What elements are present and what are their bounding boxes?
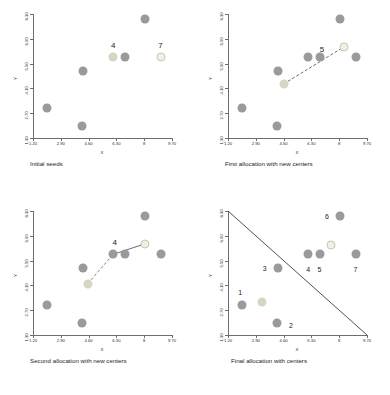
- cluster-center-marker: [156, 53, 165, 62]
- cluster-center-marker: [327, 240, 336, 249]
- data-point-marker: [78, 122, 87, 131]
- data-point-marker: [156, 250, 165, 259]
- point-annotation-label: 7: [354, 265, 358, 272]
- y-tick-label: 4.10: [219, 284, 224, 292]
- point-annotation-label: 4: [306, 265, 310, 272]
- x-tick-label: 2.90: [252, 141, 260, 146]
- point-annotation-label: 5: [320, 44, 324, 53]
- data-point-marker: [78, 319, 87, 328]
- y-tick-label: 6.90: [219, 37, 224, 45]
- data-point-marker: [273, 122, 282, 131]
- data-point-marker: [237, 103, 246, 112]
- x-axis-title: X: [296, 150, 299, 155]
- x-tick-label: 1.20: [29, 338, 37, 343]
- data-point-marker: [78, 263, 87, 272]
- x-tick-label: 8: [338, 338, 340, 343]
- overlay-lines: [33, 211, 172, 335]
- y-tick-label: 8.30: [24, 12, 29, 20]
- panel-caption: First allocation with new centers: [225, 160, 313, 167]
- point-annotation-label: 6: [325, 213, 329, 220]
- data-point-marker: [304, 250, 313, 259]
- panel-caption: Second allocation with new centers: [30, 357, 127, 364]
- point-annotation-label: 3: [263, 264, 267, 271]
- x-axis-line: [33, 335, 172, 336]
- panel-caption: Initial seeds: [30, 160, 63, 167]
- x-tick-label: 4.60: [85, 141, 93, 146]
- y-tick-label: 2.70: [219, 112, 224, 120]
- y-axis-title: Y: [13, 77, 18, 80]
- x-tick-label: 1.20: [29, 141, 37, 146]
- data-point-marker: [42, 300, 51, 309]
- y-tick-label: 8.30: [219, 209, 224, 217]
- x-tick-label: 6.30: [112, 141, 120, 146]
- x-axis-title: X: [101, 347, 104, 352]
- x-tick-label: 2.90: [57, 338, 65, 343]
- cluster-center-marker: [141, 239, 150, 248]
- y-tick-label: 5.50: [219, 62, 224, 70]
- x-tick-label: 1.20: [224, 141, 232, 146]
- overlay-lines: [228, 14, 367, 138]
- y-tick-label: 5.50: [219, 259, 224, 267]
- data-point-marker: [42, 103, 51, 112]
- data-point-marker: [273, 319, 282, 328]
- x-axis-title: X: [101, 150, 104, 155]
- y-tick-label: 2.70: [24, 309, 29, 317]
- data-point-marker: [78, 66, 87, 75]
- x-tick-label: 9.70: [363, 141, 371, 146]
- overlay-lines: [33, 14, 172, 138]
- y-axis-title: Y: [13, 274, 18, 277]
- y-tick-label: 4.10: [219, 87, 224, 95]
- point-annotation-label: 4: [113, 238, 117, 247]
- center-shift-dashed-segment: [88, 254, 113, 283]
- cluster-separator-line: [228, 211, 367, 335]
- data-point-marker: [120, 250, 129, 259]
- point-annotation-label: 5: [318, 265, 322, 272]
- x-tick-label: 9.70: [363, 338, 371, 343]
- y-tick-label: 2.70: [24, 112, 29, 120]
- y-tick-label: 6.90: [219, 234, 224, 242]
- cluster-center-marker: [83, 279, 92, 288]
- x-tick-label: 9.70: [168, 141, 176, 146]
- y-tick-label: 6.90: [24, 234, 29, 242]
- data-point-marker: [336, 15, 345, 24]
- overlay-lines: [228, 211, 367, 335]
- x-tick-label: 6.30: [307, 338, 315, 343]
- data-point-marker: [315, 250, 324, 259]
- cluster-center-marker: [258, 298, 267, 307]
- point-annotation-label: 2: [289, 322, 293, 329]
- panel-caption: Final allocation with centers: [231, 357, 307, 364]
- data-point-marker: [336, 212, 345, 221]
- x-tick-label: 4.60: [280, 141, 288, 146]
- center-move-arrow: [284, 47, 345, 84]
- panel-first-allocation: Y X 1.302.704.105.506.908.301.202.904.60…: [195, 0, 390, 197]
- data-point-marker: [141, 15, 150, 24]
- plot-area-0: Y X 1.302.704.105.506.908.301.202.904.60…: [33, 14, 172, 138]
- data-point-marker: [351, 250, 360, 259]
- x-tick-label: 6.30: [112, 338, 120, 343]
- data-point-marker: [273, 263, 282, 272]
- data-point-marker: [304, 53, 313, 62]
- data-point-marker: [141, 212, 150, 221]
- data-point-marker: [273, 66, 282, 75]
- x-axis-line: [228, 335, 367, 336]
- figure-grid: Y X 1.302.704.105.506.908.301.202.904.60…: [0, 0, 390, 395]
- y-tick-label: 4.10: [24, 87, 29, 95]
- x-tick-label: 4.60: [85, 338, 93, 343]
- y-tick-label: 8.30: [219, 12, 224, 20]
- x-tick-label: 2.90: [252, 338, 260, 343]
- x-tick-label: 8: [143, 338, 145, 343]
- y-tick-label: 2.70: [219, 309, 224, 317]
- plot-area-1: Y X 1.302.704.105.506.908.301.202.904.60…: [228, 14, 367, 138]
- cluster-center-marker: [340, 42, 349, 51]
- panel-initial-seeds: Y X 1.302.704.105.506.908.301.202.904.60…: [0, 0, 195, 197]
- x-tick-label: 4.60: [280, 338, 288, 343]
- data-point-marker: [315, 53, 324, 62]
- x-tick-label: 2.90: [57, 141, 65, 146]
- plot-area-3: Y X 1.302.704.105.506.908.301.202.904.60…: [228, 211, 367, 335]
- y-tick-label: 5.50: [24, 62, 29, 70]
- panel-final-allocation: Y X 1.302.704.105.506.908.301.202.904.60…: [195, 197, 390, 394]
- y-tick-label: 6.90: [24, 37, 29, 45]
- point-annotation-label: 1: [238, 289, 242, 296]
- data-point-marker: [237, 300, 246, 309]
- point-annotation-label: 7: [158, 41, 162, 50]
